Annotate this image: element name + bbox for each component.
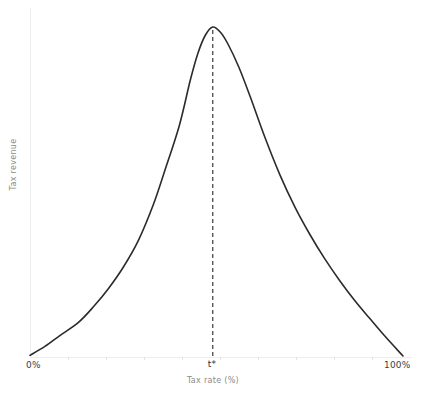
x-tick-label-100: 100% [384,360,411,370]
chart-canvas [0,0,426,403]
laffer-curve-line [30,27,403,356]
x-tick-label-0: 0% [26,360,41,370]
y-axis-title: Tax revenue [9,130,18,200]
laffer-curve-chart: 0% t* 100% Tax rate (%) Tax revenue [0,0,426,403]
x-axis-title: Tax rate (%) [0,376,426,385]
x-tick-label-tstar: t* [208,359,216,369]
